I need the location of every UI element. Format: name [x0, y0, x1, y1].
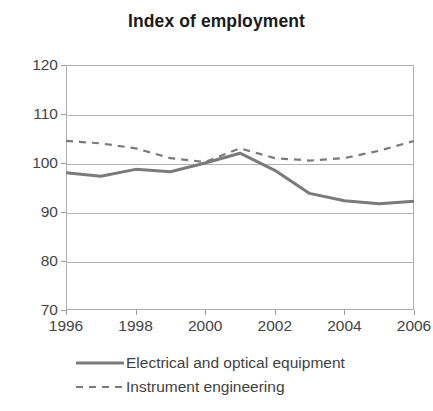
x-axis-tick-label: 2004: [327, 317, 361, 335]
x-axis-tick-label: 1996: [49, 317, 83, 335]
legend-item-2: Instrument engineering: [76, 375, 426, 399]
x-axis-tick-label: 1998: [118, 317, 152, 335]
x-axis-tick-mark: [344, 310, 345, 315]
x-axis-tick-label: 2006: [397, 317, 431, 335]
x-axis-tick-label: 2000: [188, 317, 222, 335]
y-axis-tick-label: 100: [12, 154, 58, 172]
y-axis-tick-mark: [61, 261, 66, 262]
series-lines: [66, 65, 414, 310]
x-axis-tick-mark: [205, 310, 206, 315]
x-axis-tick-mark: [66, 310, 67, 315]
x-axis-tick-mark: [414, 310, 415, 315]
y-axis-tick-mark: [61, 114, 66, 115]
y-axis-tick-label: 120: [12, 56, 58, 74]
chart-legend: Electrical and optical equipmentInstrume…: [76, 351, 426, 399]
y-axis-tick-mark: [61, 212, 66, 213]
x-axis-tick-label: 2002: [258, 317, 292, 335]
legend-label: Electrical and optical equipment: [126, 355, 345, 371]
chart-title: Index of employment: [0, 11, 433, 32]
legend-swatch-solid-icon: [76, 357, 126, 369]
x-axis-tick-mark: [275, 310, 276, 315]
chart-figure: Index of employment 708090100110120 1996…: [0, 0, 433, 411]
series-line-2: [66, 141, 414, 162]
legend-item-1: Electrical and optical equipment: [76, 351, 426, 375]
y-axis-tick-label: 110: [12, 105, 58, 123]
y-axis-tick-mark: [61, 163, 66, 164]
series-line-1: [66, 153, 414, 203]
y-axis-tick-label: 90: [12, 203, 58, 221]
y-axis-tick-mark: [61, 65, 66, 66]
legend-swatch-dashed-icon: [76, 381, 126, 393]
y-axis-tick-label: 80: [12, 252, 58, 270]
legend-label: Instrument engineering: [126, 379, 285, 395]
x-axis-tick-mark: [136, 310, 137, 315]
